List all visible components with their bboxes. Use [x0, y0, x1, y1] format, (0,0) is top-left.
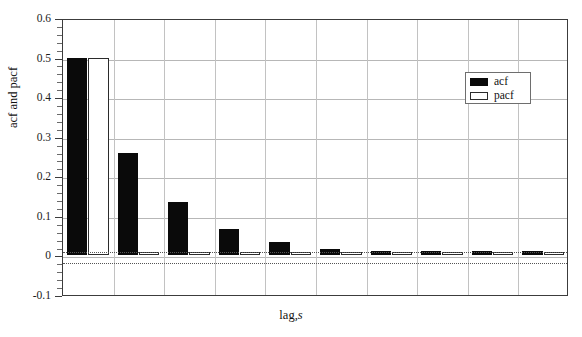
bar-pacf-lag-10	[544, 252, 564, 255]
bar-acf-lag-2	[118, 153, 138, 255]
x-axis-title: lag,s	[0, 308, 582, 323]
plot-area	[62, 19, 568, 296]
gridline	[63, 257, 567, 258]
bar-pacf-lag-6	[341, 252, 361, 255]
y-tick-major	[55, 256, 62, 257]
category-separator	[114, 20, 115, 295]
legend-item-acf: acf	[470, 76, 526, 88]
legend-label-acf: acf	[494, 76, 508, 88]
y-tick-label: 0	[0, 250, 51, 262]
gridline	[63, 178, 567, 179]
y-tick-major	[55, 19, 62, 20]
legend-swatch-acf	[470, 78, 488, 86]
gridline	[63, 60, 567, 61]
y-tick-major	[55, 138, 62, 139]
bar-acf-lag-5	[269, 242, 289, 255]
y-tick-label: 0.6	[0, 13, 51, 25]
bar-pacf-lag-5	[291, 252, 311, 255]
category-separator	[164, 20, 165, 295]
y-tick-label: 0.5	[0, 53, 51, 65]
legend-label-pacf: pacf	[494, 90, 514, 102]
confidence-band	[63, 263, 567, 264]
category-separator	[417, 20, 418, 295]
bar-pacf-lag-7	[392, 252, 412, 255]
category-separator	[367, 20, 368, 295]
y-tick-major	[55, 296, 62, 297]
y-tick-label: 0.1	[0, 211, 51, 223]
y-tick-label: 0.2	[0, 171, 51, 183]
bar-pacf-lag-4	[240, 252, 260, 255]
bar-acf-lag-1	[67, 58, 87, 256]
category-separator	[215, 20, 216, 295]
y-tick-major	[55, 217, 62, 218]
bar-pacf-lag-9	[493, 252, 513, 255]
category-separator	[468, 20, 469, 295]
y-tick-major	[55, 177, 62, 178]
y-tick-label: -0.1	[0, 290, 51, 302]
bar-pacf-lag-8	[442, 252, 462, 255]
bar-acf-lag-3	[168, 202, 188, 255]
x-axis-title-roman: lag,	[279, 308, 297, 322]
category-separator	[316, 20, 317, 295]
legend-item-pacf: pacf	[470, 90, 526, 102]
y-tick-major	[55, 59, 62, 60]
bar-pacf-lag-3	[189, 252, 209, 255]
y-tick-label: 0.4	[0, 92, 51, 104]
gridline	[63, 139, 567, 140]
legend-swatch-pacf	[470, 92, 488, 100]
gridline	[63, 218, 567, 219]
category-separator	[265, 20, 266, 295]
chart-figure: acf and pacf 0.60.50.40.30.20.10-0.1 123…	[0, 0, 582, 337]
category-separator	[518, 20, 519, 295]
bar-pacf-lag-1	[88, 58, 108, 256]
x-axis-title-italic: s	[298, 308, 303, 322]
y-tick-label: 0.3	[0, 132, 51, 144]
y-tick-major	[55, 98, 62, 99]
legend: acf pacf	[465, 72, 531, 104]
confidence-band	[63, 252, 567, 253]
